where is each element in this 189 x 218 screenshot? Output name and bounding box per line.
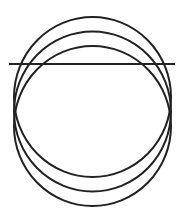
circle-bottom <box>14 46 171 206</box>
circle-top <box>14 17 171 177</box>
diagram-canvas <box>0 0 189 218</box>
circle-middle <box>14 32 171 192</box>
